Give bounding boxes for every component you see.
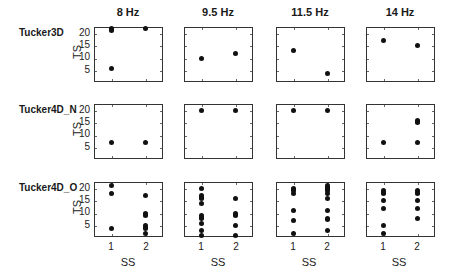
xtick-1: 1 <box>105 241 117 252</box>
y-tick-mark <box>160 226 162 227</box>
y-tick-mark <box>250 71 252 72</box>
y-tick-mark <box>160 111 162 112</box>
data-point <box>199 201 204 206</box>
y-tick-mark <box>342 46 344 47</box>
y-tick-mark <box>160 46 162 47</box>
y-tick-mark <box>342 148 344 149</box>
y-tick-mark <box>367 189 369 190</box>
data-point <box>415 120 420 125</box>
row-title-tucker3d: Tucker3D <box>19 27 64 38</box>
y-tick-mark <box>160 71 162 72</box>
data-point <box>233 233 238 238</box>
x-tick-mark <box>418 105 419 107</box>
data-point <box>325 108 330 113</box>
x-tick-mark <box>328 79 329 81</box>
y-tick-mark <box>277 136 279 137</box>
data-point <box>291 108 296 113</box>
data-point <box>109 66 114 71</box>
x-tick-mark <box>202 105 203 107</box>
data-point <box>233 196 238 201</box>
y-tick-mark <box>277 59 279 60</box>
x-tick-mark <box>146 79 147 81</box>
y-tick-mark <box>250 189 252 190</box>
data-point <box>143 213 148 218</box>
y-tick-mark <box>432 46 434 47</box>
data-point <box>291 191 296 196</box>
scatter-panel-tucker4d-n-9-5-hz <box>184 104 253 159</box>
x-tick-mark <box>236 183 237 185</box>
y-tick-mark <box>250 46 252 47</box>
data-point <box>325 217 330 222</box>
y-tick-mark <box>277 46 279 47</box>
y-tick-mark <box>277 214 279 215</box>
y-tick-mark <box>160 136 162 137</box>
data-point <box>381 198 386 203</box>
x-tick-mark <box>384 28 385 30</box>
y-tick-mark <box>250 148 252 149</box>
scatter-panel-tucker3d-11-5-hz <box>276 27 345 82</box>
y-tick-mark <box>250 201 252 202</box>
x-tick-mark <box>384 183 385 185</box>
y-tick-mark <box>367 226 369 227</box>
data-point <box>415 43 420 48</box>
scatter-panel-tucker4d-n-14-hz <box>366 104 435 159</box>
data-point <box>415 206 420 211</box>
x-tick-mark <box>328 156 329 158</box>
y-tick-mark <box>342 189 344 190</box>
data-point <box>381 38 386 43</box>
scatter-panel-tucker3d-14-hz <box>366 27 435 82</box>
y-tick-mark <box>432 148 434 149</box>
x-tick-mark <box>202 79 203 81</box>
y-tick-mark <box>95 34 97 35</box>
y-tick-mark <box>95 59 97 60</box>
data-point <box>143 226 148 231</box>
data-point <box>233 223 238 228</box>
x-tick-mark <box>384 156 385 158</box>
data-point <box>325 191 330 196</box>
y-tick-mark <box>367 136 369 137</box>
y-tick-mark <box>342 34 344 35</box>
y-tick-mark <box>367 71 369 72</box>
y-tick-mark <box>185 111 187 112</box>
xlabel-ss: SS <box>294 256 324 268</box>
y-tick-mark <box>432 123 434 124</box>
y-tick-mark <box>432 59 434 60</box>
data-point <box>143 26 148 31</box>
y-tick-mark <box>432 189 434 190</box>
y-tick-mark <box>250 59 252 60</box>
y-tick-mark <box>95 136 97 137</box>
y-tick-mark <box>160 34 162 35</box>
x-tick-mark <box>418 183 419 185</box>
y-tick-mark <box>185 59 187 60</box>
y-tick-mark <box>277 71 279 72</box>
scatter-panel-tucker4d-o-9-5-hz <box>184 182 253 237</box>
x-tick-mark <box>112 105 113 107</box>
data-point <box>109 226 114 231</box>
xlabel-ss: SS <box>384 256 414 268</box>
data-point <box>291 208 296 213</box>
data-point <box>325 196 330 201</box>
scatter-panel-tucker4d-n-8-hz <box>94 104 163 159</box>
x-tick-mark <box>146 156 147 158</box>
y-tick-mark <box>367 46 369 47</box>
y-tick-mark <box>277 201 279 202</box>
y-tick-mark <box>95 123 97 124</box>
data-point <box>143 231 148 236</box>
y-tick-mark <box>185 34 187 35</box>
y-tick-mark <box>342 226 344 227</box>
x-tick-mark <box>294 79 295 81</box>
y-tick-mark <box>277 123 279 124</box>
data-point <box>291 218 296 223</box>
ylabel-ts: TS <box>71 45 83 59</box>
data-point <box>381 191 386 196</box>
data-point <box>199 233 204 238</box>
xtick-1: 1 <box>287 241 299 252</box>
y-tick-mark <box>342 111 344 112</box>
y-tick-mark <box>185 148 187 149</box>
y-tick-mark <box>160 214 162 215</box>
data-point <box>233 213 238 218</box>
y-tick-mark <box>342 214 344 215</box>
y-tick-mark <box>277 189 279 190</box>
x-tick-mark <box>112 156 113 158</box>
data-point <box>415 140 420 145</box>
